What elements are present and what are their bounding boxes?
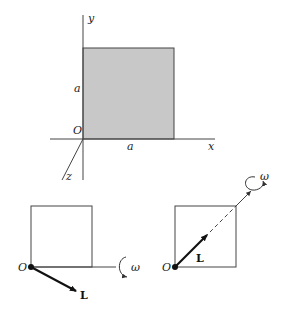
y-axis-label: y <box>87 12 95 25</box>
z-axis-label: z <box>65 170 72 183</box>
origin-label: O <box>18 261 27 274</box>
origin-dot <box>28 264 34 270</box>
omega-label: ω <box>131 261 140 274</box>
rotation-axis-extension <box>236 191 251 206</box>
figure-svg: y x z O a a O L ω O L ω <box>0 0 283 314</box>
x-axis-label: x <box>208 140 215 153</box>
origin-label: O <box>162 261 171 274</box>
origin-dot <box>172 264 178 270</box>
rotation-arrow-icon <box>119 257 127 277</box>
angular-momentum-vector <box>31 267 76 291</box>
top-plate-diagram: y x z O a a <box>50 12 215 183</box>
side-label-horizontal: a <box>127 140 134 153</box>
vector-label: L <box>196 252 204 265</box>
diagram-canvas: y x z O a a O L ω O L ω <box>0 0 283 314</box>
bottom-right-diagram: O L ω <box>162 170 269 274</box>
omega-label: ω <box>260 170 269 183</box>
origin-label: O <box>73 124 82 137</box>
side-label-vertical: a <box>74 82 81 95</box>
square-outline <box>31 206 92 267</box>
diagonal-dashed-axis <box>205 206 236 237</box>
vector-label: L <box>80 289 88 302</box>
bottom-left-diagram: O L ω <box>18 206 140 302</box>
shaded-square <box>83 48 174 139</box>
